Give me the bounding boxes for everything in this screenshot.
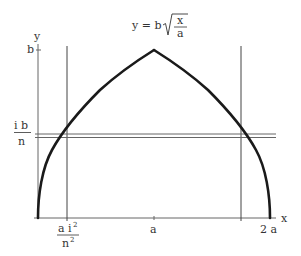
- parabola-strip-diagram: y = b x a y b x a 2 a i b n a i 2 n 2: [0, 0, 301, 256]
- vertical-line-label: a i 2 n 2: [57, 221, 79, 250]
- formula-label: y = b x a: [131, 14, 188, 40]
- xline-label-denominator-sup: 2: [70, 236, 74, 244]
- y-axis-label: y: [33, 30, 41, 43]
- strip-height-label: i b n: [14, 119, 31, 148]
- x-tick-label-a: a: [150, 223, 157, 236]
- radical-sign-icon: [163, 14, 188, 35]
- x-tick-label-2a: 2 a: [260, 223, 277, 236]
- x-axis-label: x: [281, 212, 288, 225]
- strip-label-denominator: n: [18, 135, 25, 148]
- xline-label-denominator: n: [62, 237, 69, 250]
- y-tick-label-b: b: [27, 43, 34, 56]
- formula-denominator: a: [177, 27, 184, 40]
- formula-numerator: x: [177, 14, 184, 27]
- xline-label-numerator-sup: 2: [73, 221, 77, 229]
- strip-label-numerator: i b: [14, 119, 28, 132]
- formula-lhs: y = b: [131, 19, 161, 32]
- xline-label-numerator: a i: [58, 222, 72, 235]
